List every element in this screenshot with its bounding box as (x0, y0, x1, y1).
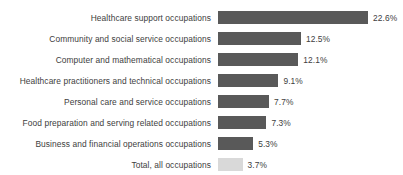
chart-row: Total, all occupations3.7% (0, 154, 403, 175)
bar-area: 7.3% (218, 112, 403, 133)
bar-value-label: 7.7% (269, 97, 293, 107)
bar-value-label: 12.5% (301, 34, 330, 44)
bar-category-label: Healthcare support occupations (0, 13, 218, 23)
bar (218, 11, 368, 24)
bar (218, 53, 298, 66)
chart-row: Community and social service occupations… (0, 28, 403, 49)
bar (218, 95, 269, 108)
bar (218, 137, 253, 150)
bar-category-label: Healthcare practitioners and technical o… (0, 76, 218, 86)
bar-category-label: Total, all occupations (0, 160, 218, 170)
bar-value-label: 7.3% (266, 118, 290, 128)
bar (218, 32, 301, 45)
bar (218, 158, 243, 171)
bar-area: 7.7% (218, 91, 403, 112)
bar-area: 3.7% (218, 154, 403, 175)
bar (218, 116, 266, 129)
bar-category-label: Personal care and service occupations (0, 97, 218, 107)
bar-category-label: Community and social service occupations (0, 34, 218, 44)
chart-row: Computer and mathematical occupations12.… (0, 49, 403, 70)
bar-value-label: 9.1% (278, 76, 302, 86)
bar-area: 12.1% (218, 49, 403, 70)
bar-area: 9.1% (218, 70, 403, 91)
bar-value-label: 5.3% (253, 139, 277, 149)
bar (218, 74, 278, 87)
chart-row: Food preparation and serving related occ… (0, 112, 403, 133)
chart-row: Healthcare practitioners and technical o… (0, 70, 403, 91)
bar-chart: Healthcare support occupations22.6%Commu… (0, 0, 403, 175)
bar-category-label: Business and financial operations occupa… (0, 139, 218, 149)
bar-category-label: Computer and mathematical occupations (0, 55, 218, 65)
chart-rows: Healthcare support occupations22.6%Commu… (0, 7, 403, 175)
bar-area: 5.3% (218, 133, 403, 154)
bar-value-label: 3.7% (243, 160, 267, 170)
bar-value-label: 22.6% (368, 13, 397, 23)
bar-area: 12.5% (218, 28, 403, 49)
chart-row: Business and financial operations occupa… (0, 133, 403, 154)
chart-row: Healthcare support occupations22.6% (0, 7, 403, 28)
chart-row: Personal care and service occupations7.7… (0, 91, 403, 112)
bar-value-label: 12.1% (298, 55, 327, 65)
bar-area: 22.6% (218, 7, 403, 28)
bar-category-label: Food preparation and serving related occ… (0, 118, 218, 128)
